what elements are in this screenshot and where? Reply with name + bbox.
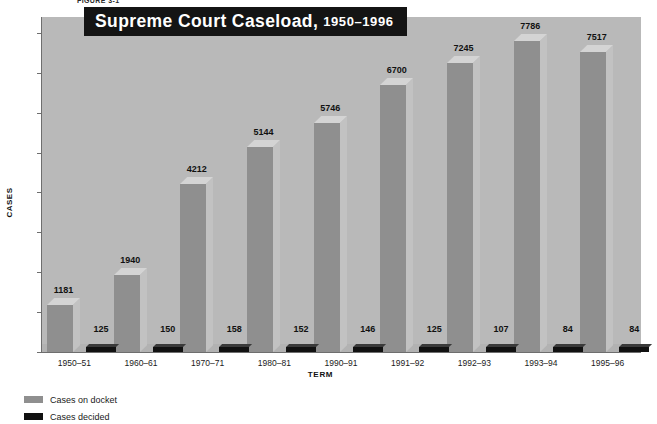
chart-legend: Cases on docketCases decided <box>24 393 117 424</box>
x-tick-label: 1950–51 <box>58 358 91 368</box>
bar-value-label-decided: 146 <box>345 324 391 334</box>
bar-cases-on-docket <box>447 63 473 352</box>
bar-decided-top-face <box>353 344 386 347</box>
legend-item: Cases decided <box>24 410 117 423</box>
bar-value-label-docket: 6700 <box>372 65 421 75</box>
chart-title-years: 1950–1996 <box>323 14 393 29</box>
y-tick-mark <box>37 272 41 273</box>
bar-decided-top-face <box>619 344 652 347</box>
x-axis-title: TERM <box>0 370 641 379</box>
y-axis-title: CASES <box>5 181 14 225</box>
bar-value-label-docket: 7517 <box>572 32 621 42</box>
bar-decided-top-face <box>86 344 119 347</box>
bar-value-label-docket: 1940 <box>106 255 155 265</box>
y-tick-mark <box>37 192 41 193</box>
x-tick-label: 1980–81 <box>258 358 291 368</box>
y-tick-mark <box>37 352 41 353</box>
bar-value-label-docket: 5144 <box>239 127 288 137</box>
bar-value-label-decided: 158 <box>211 324 257 334</box>
bar-value-label-docket: 7245 <box>439 43 488 53</box>
bar-value-label-decided: 150 <box>145 324 191 334</box>
x-tick-label: 1991–92 <box>391 358 424 368</box>
y-tick-mark <box>37 153 41 154</box>
y-tick-mark <box>37 312 41 313</box>
bar-front-face <box>447 63 473 352</box>
chart-title-main: Supreme Court Caseload, <box>95 11 318 32</box>
bar-value-label-decided: 107 <box>478 324 524 334</box>
bar-cases-on-docket <box>47 305 73 352</box>
x-axis-line <box>41 352 641 353</box>
bar-cases-on-docket <box>114 275 140 352</box>
bar-value-label-docket: 5746 <box>306 103 355 113</box>
y-tick-mark <box>37 73 41 74</box>
bar-side-face <box>140 268 147 352</box>
x-tick-label: 1993–94 <box>524 358 557 368</box>
y-axis-line <box>41 17 42 353</box>
y-tick-mark <box>37 113 41 114</box>
bar-side-face <box>540 35 547 352</box>
bar-side-face <box>273 140 280 352</box>
bar-decided-top-face <box>219 344 252 347</box>
x-tick-label: 1970–71 <box>191 358 224 368</box>
legend-item: Cases on docket <box>24 393 117 406</box>
bar-front-face <box>314 123 340 352</box>
bar-cases-on-docket <box>514 41 540 352</box>
bar-front-face <box>114 275 140 352</box>
bar-front-face <box>247 147 273 352</box>
x-tick-label: 1960–61 <box>124 358 157 368</box>
bar-decided-top-face <box>553 344 586 347</box>
bar-cases-on-docket <box>380 85 406 352</box>
bar-decided-top-face <box>153 344 186 347</box>
bar-value-label-decided: 125 <box>78 324 124 334</box>
legend-label: Cases decided <box>50 412 110 422</box>
bar-front-face <box>514 41 540 352</box>
bar-value-label-decided: 125 <box>411 324 457 334</box>
legend-swatch <box>24 413 43 420</box>
bar-value-label-docket: 1181 <box>39 285 88 295</box>
bar-decided-top-face <box>419 344 452 347</box>
bar-side-face <box>473 56 480 352</box>
legend-swatch <box>24 396 43 403</box>
x-tick-label: 1995–96 <box>591 358 624 368</box>
legend-label: Cases on docket <box>50 395 117 405</box>
x-tick-label: 1992–93 <box>458 358 491 368</box>
bar-front-face <box>380 85 406 352</box>
bar-side-face <box>340 116 347 352</box>
chart-title-banner: Supreme Court Caseload, 1950–1996 <box>84 7 407 36</box>
bar-value-label-decided: 84 <box>611 324 657 334</box>
bar-front-face <box>580 52 606 352</box>
bar-value-label-docket: 7786 <box>506 21 555 31</box>
bar-value-label-decided: 84 <box>545 324 591 334</box>
bar-cases-on-docket <box>580 52 606 352</box>
y-tick-mark <box>37 33 41 34</box>
figure-caption: FIGURE 3-1 <box>77 0 120 4</box>
bar-cases-on-docket <box>247 147 273 352</box>
bar-front-face <box>47 305 73 352</box>
bar-cases-on-docket <box>314 123 340 352</box>
bar-side-face <box>406 78 413 352</box>
bar-value-label-docket: 4212 <box>172 164 221 174</box>
x-tick-label: 1990–91 <box>324 358 357 368</box>
bar-side-face <box>606 45 613 352</box>
y-tick-mark <box>37 232 41 233</box>
bar-decided-top-face <box>486 344 519 347</box>
bar-decided-top-face <box>286 344 319 347</box>
bar-value-label-decided: 152 <box>278 324 324 334</box>
